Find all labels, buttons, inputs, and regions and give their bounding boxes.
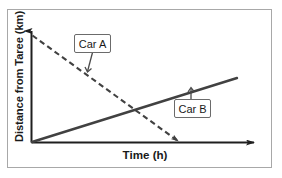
x-axis-title: Time (h) bbox=[123, 148, 168, 161]
distance-time-line-chart: Car A Car B Distance from Taree (km) Tim… bbox=[0, 0, 282, 178]
car-b-label-text: Car B bbox=[178, 103, 206, 115]
car-a-label-text: Car A bbox=[79, 38, 107, 50]
y-axis-title: Distance from Taree (km) bbox=[13, 11, 25, 142]
car-a-leader-line bbox=[88, 53, 93, 72]
figure-root: Car A Car B Distance from Taree (km) Tim… bbox=[0, 0, 282, 178]
